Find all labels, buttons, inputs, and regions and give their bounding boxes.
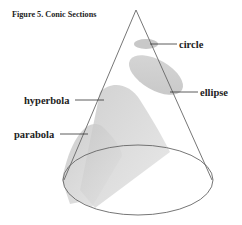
label-parabola: parabola — [14, 129, 55, 140]
figure-title: Figure 5. Conic Sections — [12, 10, 96, 19]
label-ellipse: ellipse — [200, 87, 228, 98]
conic-sections-figure: Figure 5. Conic Sections circle ellipse … — [0, 0, 242, 225]
label-circle: circle — [179, 39, 204, 50]
label-hyperbola: hyperbola — [24, 95, 70, 106]
